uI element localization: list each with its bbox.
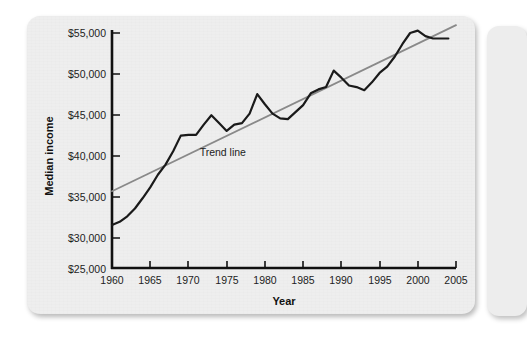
y-tick-label: $35,000 [68,191,106,203]
x-tick-label: 1980 [253,274,277,286]
trend-line-annotation: Trend line [200,146,246,158]
y-tick-label: $50,000 [68,68,106,80]
x-tick-label: 1975 [215,274,239,286]
x-tick-label: 2005 [444,274,468,286]
x-tick-label: 1985 [291,274,315,286]
x-axis-tick-labels: 1960 1965 1970 1975 1980 1985 1990 1995 … [100,274,468,286]
y-tick-label: $40,000 [68,150,106,162]
adjacent-figure-card [487,26,527,316]
figure-card: $55,000 $50,000 $45,000 $40,000 $35,000 … [27,16,475,314]
x-tick-label: 1965 [138,274,162,286]
y-tick-label: $30,000 [68,232,106,244]
median-income-line-chart: $55,000 $50,000 $45,000 $40,000 $35,000 … [27,16,475,314]
x-tick-label: 1990 [329,274,353,286]
x-tick-label: 1995 [368,274,392,286]
y-tick-label: $55,000 [68,27,106,39]
median-income-series [112,31,448,225]
x-tick-label: 1960 [100,274,124,286]
x-tick-label: 2000 [406,274,430,286]
x-tick-label: 1970 [176,274,200,286]
x-axis-title: Year [272,295,296,307]
y-axis-tick-labels: $55,000 $50,000 $45,000 $40,000 $35,000 … [68,27,106,275]
y-axis-title: Median income [43,116,55,195]
y-tick-label: $45,000 [68,109,106,121]
